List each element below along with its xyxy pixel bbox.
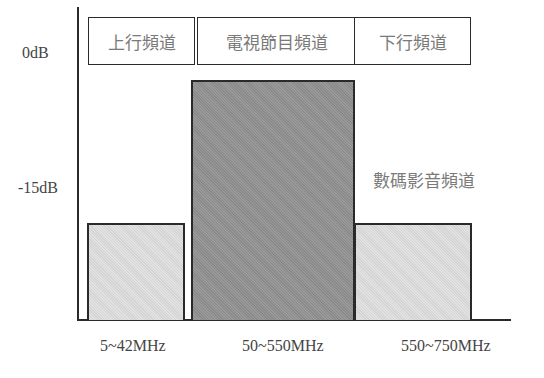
header-label-upstream: 上行頻道 <box>108 29 176 54</box>
header-label-tv-programs: 電視節目頻道 <box>226 29 328 54</box>
y-axis <box>77 7 79 321</box>
bar-downstream <box>354 223 472 320</box>
x-label-upstream: 5~42MHz <box>100 337 166 355</box>
y-tick-minus-15db: -15dB <box>18 179 58 197</box>
header-box-tv-programs: 電視節目頻道 <box>197 17 356 65</box>
x-label-tv-programs: 50~550MHz <box>242 337 324 355</box>
y-tick-0db: 0dB <box>22 44 49 62</box>
bar-upstream <box>87 223 185 320</box>
header-box-upstream: 上行頻道 <box>88 17 195 65</box>
x-label-downstream: 550~750MHz <box>401 337 491 355</box>
bar-tv-programs <box>191 80 355 320</box>
annotation-digital-av-channel: 數碼影音頻道 <box>373 167 475 192</box>
header-label-downstream: 下行頻道 <box>379 29 447 54</box>
header-box-downstream: 下行頻道 <box>354 17 471 65</box>
